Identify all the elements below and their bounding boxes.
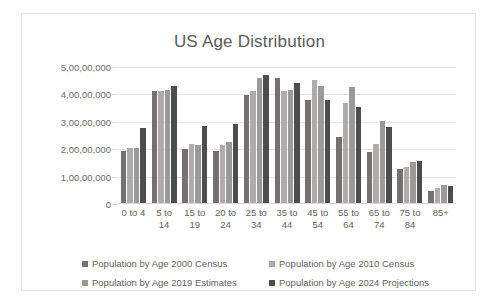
bar[interactable] [152,91,158,203]
legend-item[interactable]: Population by Age 2024 Projections [251,273,446,292]
legend-swatch-icon [82,280,88,286]
bar[interactable] [140,128,146,203]
bar[interactable] [171,86,177,203]
bar[interactable] [165,90,171,203]
bar[interactable] [189,144,195,203]
legend-label: Population by Age 2010 Census [279,258,414,269]
bar[interactable] [448,186,454,203]
bar[interactable] [325,100,331,203]
bar-group [241,67,272,203]
bar[interactable] [275,78,281,203]
legend-swatch-icon [82,261,88,267]
bar-group [425,67,456,203]
y-axis-tick-label: 1,00,00,000 [61,171,111,182]
bar-group [210,67,241,203]
bar[interactable] [121,151,127,203]
bar[interactable] [410,162,416,203]
legend-label: Population by Age 2000 Census [92,258,227,269]
bar[interactable] [356,107,362,203]
bar-groups [118,67,456,203]
legend-item[interactable]: Population by Age 2019 Estimates [56,273,251,292]
y-axis-tick-mark [112,67,117,68]
legend-label: Population by Age 2024 Projections [279,277,429,288]
bar[interactable] [373,144,379,203]
y-axis-tick-mark [112,94,117,95]
bar-group [179,67,210,203]
bar[interactable] [263,75,269,203]
y-axis-tick-label: 2,00,00,000 [61,144,111,155]
bar[interactable] [397,169,403,203]
x-axis-tick-label: 0 to 4 [118,207,149,231]
legend-swatch-icon [269,280,275,286]
bar[interactable] [435,188,441,203]
x-axis-tick-label: 15 to 19 [179,207,210,231]
bar[interactable] [226,142,232,203]
bar[interactable] [404,167,410,203]
y-axis-tick-mark [112,177,117,178]
bar[interactable] [349,87,355,203]
chart-legend: Population by Age 2000 CensusPopulation … [56,254,446,292]
legend-swatch-icon [269,261,275,267]
bar[interactable] [294,83,300,203]
bar-group [149,67,180,203]
bar[interactable] [386,127,392,203]
bar[interactable] [441,185,447,203]
bar[interactable] [417,161,423,203]
bar-group [395,67,426,203]
x-axis-tick-label: 55 to 64 [333,207,364,231]
bar[interactable] [182,149,188,203]
y-axis-tick-mark [112,204,117,205]
legend-item[interactable]: Population by Age 2000 Census [56,254,251,273]
bar[interactable] [195,145,201,203]
legend-label: Population by Age 2019 Estimates [92,277,237,288]
bar[interactable] [305,100,311,203]
x-axis-tick-label: 75 to 84 [395,207,426,231]
bar[interactable] [312,80,318,203]
bar-group [302,67,333,203]
bar[interactable] [288,90,294,203]
bar[interactable] [233,124,239,203]
x-axis-tick-label: 45 to 54 [302,207,333,231]
bar[interactable] [213,151,219,203]
y-axis-tick-label: 5,00,00,000 [61,62,111,73]
bar-group [333,67,364,203]
plot-area: 01,00,00,0002,00,00,0003,00,00,0004,00,0… [118,67,456,204]
bar[interactable] [134,148,140,203]
bar[interactable] [158,91,164,203]
y-axis-tick-mark [112,149,117,150]
x-axis-tick-label: 25 to 34 [241,207,272,231]
x-axis-tick-label: 85+ [425,207,456,231]
y-axis-tick-label: 3,00,00,000 [61,116,111,127]
bar[interactable] [281,91,287,203]
bar[interactable] [380,121,386,203]
bar[interactable] [318,86,324,203]
y-axis-tick-label: 4,00,00,000 [61,89,111,100]
bar-group [272,67,303,203]
x-axis-line [118,203,456,204]
x-axis-labels: 0 to 45 to 1415 to 1920 to 2425 to 3435 … [118,207,456,231]
bar[interactable] [127,148,133,203]
bar[interactable] [367,152,373,203]
bar[interactable] [220,145,226,203]
bar-group [364,67,395,203]
bar[interactable] [428,191,434,203]
chart-title: US Age Distribution [22,32,477,52]
bar-group [118,67,149,203]
x-axis-tick-label: 20 to 24 [210,207,241,231]
bar[interactable] [244,95,250,203]
bar[interactable] [202,126,208,203]
bar[interactable] [250,91,256,203]
chart-container: US Age Distribution 01,00,00,0002,00,00,… [21,13,476,291]
legend-item[interactable]: Population by Age 2010 Census [251,254,446,273]
x-axis-tick-label: 35 to 44 [272,207,303,231]
x-axis-tick-label: 5 to 14 [149,207,180,231]
y-axis-tick-label: 0 [106,199,111,210]
x-axis-tick-label: 65 to 74 [364,207,395,231]
y-axis-tick-mark [112,122,117,123]
bar[interactable] [336,137,342,203]
bar[interactable] [257,78,263,203]
bar[interactable] [343,103,349,203]
